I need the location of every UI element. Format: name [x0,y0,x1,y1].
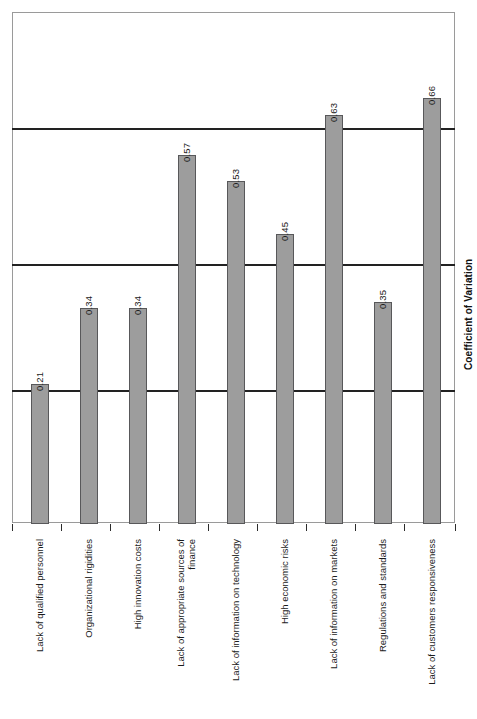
bar-lack-of-appropriate-sources-of-finance[interactable] [178,155,196,524]
bar-high-economic-risks[interactable] [276,234,294,524]
bar-value-label: 0.57 [182,143,192,162]
category-label-lack-of-customers-responsiveness: Lack of customers responsiveness [426,539,437,709]
category-label-lack-of-appropriate-sources-of-finance: Lack of appropriate sources of finance [175,539,197,709]
bar-value-label: 0.45 [280,222,290,241]
bar-value-label: 0.34 [84,296,94,315]
chart-figure: 0.21 0.34 0.34 0.57 0.53 0.45 0.63 0.35 … [0,0,477,719]
bar-value-label: 0.34 [133,296,143,315]
category-label-lack-of-information-on-markets: Lack of information on markets [328,539,339,709]
axis-tick [455,524,456,531]
category-label-organizational-rigidities: Organizational rigidities [83,539,94,709]
axis-tick [404,524,405,531]
axis-tick [61,524,62,531]
bar-organizational-rigidities[interactable] [80,308,98,524]
category-label-lack-of-qualified-personnel: Lack of qualified personnel [34,539,45,709]
bar-high-innovation-costs[interactable] [129,308,147,524]
bar-lack-of-information-on-technology[interactable] [227,181,245,524]
bar-value-label: 0.53 [231,169,241,188]
axis-tick [159,524,160,531]
bar-lack-of-qualified-personnel[interactable] [31,384,49,524]
axis-tick [110,524,111,531]
bar-value-label: 0.63 [329,103,339,122]
axis-tick [208,524,209,531]
category-label-high-innovation-costs: High innovation costs [132,539,143,709]
axis-tick [12,524,13,531]
axis-tick [306,524,307,531]
bar-lack-of-customers-responsiveness[interactable] [423,98,441,524]
category-label-high-economic-risks: High economic risks [279,539,290,709]
bar-regulations-and-standards[interactable] [374,302,392,524]
gridline-0.6 [12,128,455,130]
y-axis-title: Coefficient of Variation [463,259,474,370]
bar-value-label: 0.35 [378,290,388,309]
bar-value-label: 0.21 [35,372,45,391]
bar-value-label: 0.66 [427,86,437,105]
axis-tick [355,524,356,531]
category-label-regulations-and-standards: Regulations and standards [377,539,388,709]
category-label-lack-of-information-on-technology: Lack of information on technology [230,539,241,709]
bar-lack-of-information-on-markets[interactable] [325,115,343,524]
axis-tick [257,524,258,531]
